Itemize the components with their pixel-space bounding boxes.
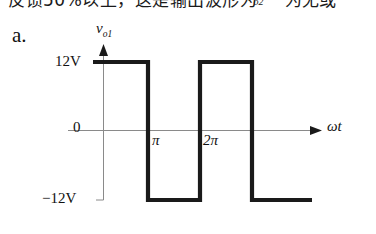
x-tick-label-two-pi: 2π — [203, 132, 218, 149]
y-tick-label-positive: 12V — [55, 53, 81, 70]
x-tick-label-pi: π — [152, 132, 160, 149]
x-axis-label: ωt — [327, 118, 342, 135]
y-axis-label: vo1 — [96, 20, 112, 39]
y-axis-arrow-icon — [99, 44, 108, 56]
square-wave-plot: vo1 12V 0 −12V π 2π ωt — [0, 0, 376, 234]
y-tick-label-zero: 0 — [73, 119, 81, 136]
y-axis-label-variable: v — [96, 20, 103, 36]
y-axis-label-subscript: o1 — [103, 29, 113, 39]
x-axis-arrow-icon — [310, 126, 322, 135]
figure-page: 反馈50%以上，这是输出波形为 vo2 为无或 a. vo1 1 — [0, 0, 376, 234]
y-tick-label-negative: −12V — [42, 190, 76, 207]
